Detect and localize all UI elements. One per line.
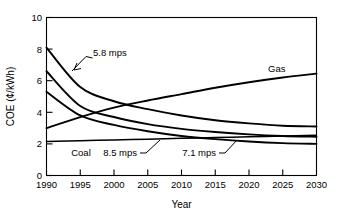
label-5-8-mps: 5.8 mps <box>93 47 127 58</box>
x-tick-label: 2005 <box>137 179 158 190</box>
x-tick-label: 2020 <box>238 179 259 190</box>
y-axis-tick-labels: 0 2 4 6 8 10 <box>31 12 42 181</box>
label-coal: Coal <box>71 147 91 158</box>
y-tick-label: 6 <box>37 75 42 86</box>
x-tick-label: 2025 <box>272 179 293 190</box>
x-axis-title: Year <box>171 199 192 210</box>
series-line-7-1-mps <box>47 71 317 137</box>
label-gas: Gas <box>268 63 286 74</box>
chart-container: 0 2 4 6 8 10 COE (¢/kWh) 1990 1995 2000 … <box>0 0 337 220</box>
leader-5-8-mps-head <box>74 63 81 70</box>
label-7-1-mps: 7.1 mps <box>182 147 216 158</box>
leader-5-8-mps-arrow <box>86 57 93 59</box>
y-tick-label: 2 <box>37 138 42 149</box>
x-tick-label: 1990 <box>36 179 57 190</box>
y-tick-label: 8 <box>37 44 42 55</box>
x-axis-ticks <box>47 170 317 176</box>
x-tick-label: 2010 <box>171 179 192 190</box>
x-tick-label: 2000 <box>103 179 124 190</box>
leader-7-1-mps <box>219 140 237 153</box>
x-tick-label: 2030 <box>306 179 327 190</box>
x-axis-tick-labels: 1990 1995 2000 2005 2010 2015 2020 2025 … <box>36 179 327 190</box>
leader-8-5-mps <box>140 140 160 153</box>
y-tick-label: 10 <box>31 12 42 23</box>
line-chart: 0 2 4 6 8 10 COE (¢/kWh) 1990 1995 2000 … <box>0 0 337 220</box>
x-tick-label: 2015 <box>205 179 226 190</box>
x-tick-label: 1995 <box>70 179 91 190</box>
label-8-5-mps: 8.5 mps <box>103 147 137 158</box>
y-axis-title: COE (¢/kWh) <box>5 67 16 126</box>
y-tick-label: 4 <box>37 107 42 118</box>
series-group <box>47 48 317 144</box>
series-line-gas <box>47 74 317 129</box>
